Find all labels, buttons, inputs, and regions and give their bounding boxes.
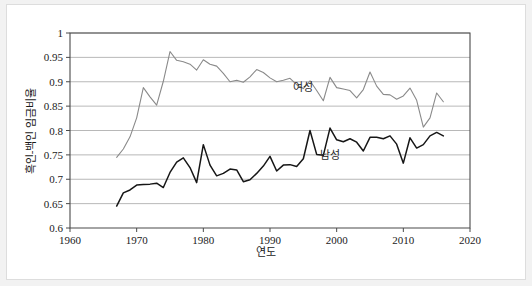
series-group (117, 52, 444, 207)
y-tick-label: 1 (58, 27, 64, 39)
tick-labels-group: 0.60.650.70.750.80.850.90.95119601970198… (44, 27, 482, 246)
figure-page: 0.60.650.70.750.80.850.90.95119601970198… (0, 0, 532, 286)
x-tick-label: 2010 (392, 234, 415, 246)
y-tick-label: 0.8 (49, 125, 63, 137)
x-tick-label: 1980 (192, 234, 215, 246)
series-label-female: 여성 (293, 81, 313, 93)
y-tick-label: 0.75 (44, 149, 64, 161)
x-tick-label: 1990 (259, 234, 282, 246)
y-tick-label: 0.95 (44, 51, 64, 63)
y-tick-label: 0.6 (49, 222, 63, 234)
series-line-male (117, 128, 444, 206)
y-tick-label: 0.65 (44, 198, 64, 210)
chart-figure: 0.60.650.70.750.80.850.90.95119601970198… (0, 0, 532, 286)
gridlines-group (70, 33, 470, 204)
x-tick-label: 2020 (459, 234, 482, 246)
y-axis-title: 흑인-백인 임금비율 (24, 88, 37, 174)
series-annotations-group: 여성남성 (293, 81, 340, 161)
x-axis-title: 연도 (256, 246, 276, 258)
y-tick-label: 0.9 (49, 76, 63, 88)
wage-ratio-line-chart: 0.60.650.70.750.80.850.90.95119601970198… (0, 0, 532, 286)
x-tick-label: 2000 (326, 234, 349, 246)
y-tick-label: 0.7 (49, 173, 63, 185)
tick-marks-group (66, 33, 470, 232)
x-tick-label: 1960 (59, 234, 82, 246)
x-tick-label: 1970 (126, 234, 149, 246)
series-label-male: 남성 (320, 149, 340, 161)
y-tick-label: 0.85 (44, 100, 64, 112)
